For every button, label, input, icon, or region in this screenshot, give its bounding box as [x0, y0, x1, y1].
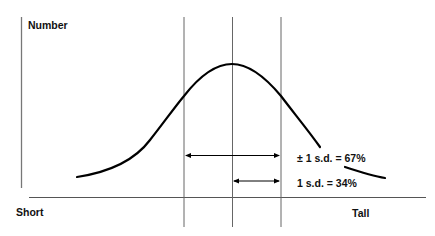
normal-distribution-diagram: Number Short Tall ± 1 s.d. = 67% 1 s.d. …	[0, 0, 435, 236]
1sd-arrow	[233, 179, 280, 184]
y-axis-label: Number	[28, 19, 68, 31]
bell-curve	[77, 64, 320, 177]
x-axis-left-label: Short	[16, 206, 43, 218]
diagram-graphics	[0, 0, 435, 236]
x-axis-right-label: Tall	[352, 207, 369, 219]
1sd-annotation: 1 s.d. = 34%	[297, 177, 357, 189]
plus-minus-1sd-annotation: ± 1 s.d. = 67%	[297, 152, 366, 164]
